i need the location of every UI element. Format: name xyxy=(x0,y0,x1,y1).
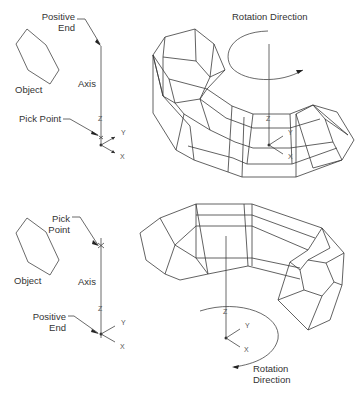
rotation-direction-label-line1: Rotation xyxy=(253,363,288,374)
ucs-z-label: Z xyxy=(98,305,102,313)
rotation-direction-label-top: Rotation Direction xyxy=(232,11,308,22)
arrowhead-icon xyxy=(91,131,99,136)
ucs-y-label: Y xyxy=(121,319,126,327)
ucs-x-label: X xyxy=(120,153,125,161)
object-hexagon-top xyxy=(16,29,59,84)
ucs-z-label-right: Z xyxy=(266,115,270,123)
ucs-y-label-right: Y xyxy=(245,322,250,330)
object-label-bottom: Object xyxy=(14,275,41,286)
rotation-arc-top xyxy=(228,31,303,80)
ucs-x-label: X xyxy=(120,343,125,351)
ucs-icon-bottom-right xyxy=(225,329,241,347)
pick-point-label-top: Pick Point xyxy=(19,113,61,124)
rotation-arc-bottom xyxy=(200,307,278,367)
ucs-y-label: Y xyxy=(121,129,126,137)
arrowhead-icon xyxy=(91,329,99,334)
positive-end-label-line1: Positive xyxy=(33,311,66,322)
ucs-icon-top-right xyxy=(268,136,284,154)
diagram-drawing xyxy=(0,0,364,396)
revolve-diagram: Positive End Object Axis Pick Point Rota… xyxy=(0,0,364,396)
positive-end-label-top: Positive End xyxy=(35,11,75,33)
ucs-icon-bottom-left xyxy=(98,243,115,342)
ucs-z-label: Z xyxy=(98,115,102,123)
ucs-y-label-right: Y xyxy=(288,129,293,137)
ucs-x-label-right: X xyxy=(288,153,293,161)
pick-point-label-line1: Pick xyxy=(52,213,70,224)
pick-point-label-line2: Point xyxy=(48,224,70,235)
positive-end-label-line1: Positive xyxy=(42,11,75,22)
rotation-direction-label-line2: Direction xyxy=(253,374,291,385)
positive-end-label-bottom: Positive End xyxy=(24,311,66,333)
rotation-arrow-icon xyxy=(232,365,239,369)
positive-end-label-line2: End xyxy=(58,22,75,33)
revolved-solid-bottom xyxy=(140,204,344,330)
axis-label-top: Axis xyxy=(78,78,96,89)
pick-point-label-bottom: Pick Point xyxy=(40,213,70,235)
revolved-solid-top xyxy=(153,29,354,177)
object-label-top: Object xyxy=(15,84,42,95)
axis-label-bottom: Axis xyxy=(78,276,96,287)
pick-point-leader-bottom xyxy=(72,217,98,245)
positive-end-label-line2: End xyxy=(49,322,66,333)
ucs-z-label-right: Z xyxy=(223,308,227,316)
ucs-x-label-right: X xyxy=(244,346,249,354)
rotation-direction-label-bottom: Rotation Direction xyxy=(253,363,291,385)
